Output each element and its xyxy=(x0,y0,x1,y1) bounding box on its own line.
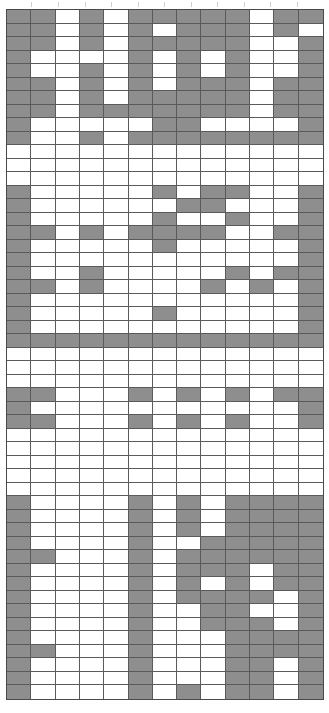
matrix-cell-r47-c5 xyxy=(104,631,128,645)
matrix-cell-r20-c5 xyxy=(104,267,128,281)
matrix-cell-r13-c12 xyxy=(274,172,298,186)
matrix-cell-r36-c7 xyxy=(153,483,177,497)
matrix-cell-r36-c5 xyxy=(104,483,128,497)
matrix-cell-r12-c12 xyxy=(274,159,298,173)
matrix-cell-r15-c11 xyxy=(250,199,274,213)
matrix-cell-r11-c6 xyxy=(129,145,153,159)
matrix-cell-r30-c7 xyxy=(153,402,177,416)
matrix-cell-r36-c2 xyxy=(31,483,55,497)
matrix-cell-r14-c4 xyxy=(80,186,104,200)
matrix-cell-r7-c2 xyxy=(31,91,55,105)
matrix-cell-r16-c4 xyxy=(80,213,104,227)
matrix-cell-r21-c10 xyxy=(226,280,250,294)
matrix-cell-r43-c4 xyxy=(80,577,104,591)
matrix-cell-r37-c7 xyxy=(153,496,177,510)
matrix-cell-r18-c1 xyxy=(7,240,31,254)
column-tick-9 xyxy=(244,2,245,7)
matrix-cell-r10-c10 xyxy=(226,132,250,146)
matrix-cell-r8-c6 xyxy=(129,105,153,119)
matrix-cell-r17-c11 xyxy=(250,226,274,240)
matrix-cell-r48-c12 xyxy=(274,645,298,659)
matrix-cell-r21-c5 xyxy=(104,280,128,294)
matrix-cell-r34-c11 xyxy=(250,456,274,470)
matrix-cell-r16-c7 xyxy=(153,213,177,227)
matrix-cell-r33-c8 xyxy=(177,442,201,456)
matrix-cell-r3-c10 xyxy=(226,37,250,51)
matrix-cell-r11-c12 xyxy=(274,145,298,159)
matrix-cell-r41-c1 xyxy=(7,550,31,564)
matrix-cell-r26-c3 xyxy=(56,348,80,362)
matrix-cell-r25-c3 xyxy=(56,334,80,348)
matrix-cell-r13-c10 xyxy=(226,172,250,186)
matrix-cell-r39-c12 xyxy=(274,523,298,537)
matrix-cell-r46-c1 xyxy=(7,618,31,632)
matrix-cell-r42-c10 xyxy=(226,564,250,578)
matrix-cell-r38-c1 xyxy=(7,510,31,524)
matrix-cell-r28-c5 xyxy=(104,375,128,389)
matrix-cell-r5-c4 xyxy=(80,64,104,78)
matrix-cell-r44-c10 xyxy=(226,591,250,605)
matrix-cell-r45-c3 xyxy=(56,604,80,618)
matrix-cell-r6-c1 xyxy=(7,78,31,92)
matrix-cell-r6-c2 xyxy=(31,78,55,92)
matrix-cell-r21-c2 xyxy=(31,280,55,294)
column-tick-2 xyxy=(58,2,59,7)
matrix-cell-r49-c12 xyxy=(274,658,298,672)
matrix-cell-r50-c9 xyxy=(201,672,225,686)
matrix-cell-r22-c5 xyxy=(104,294,128,308)
matrix-cell-r51-c2 xyxy=(31,685,55,699)
matrix-cell-r46-c7 xyxy=(153,618,177,632)
matrix-cell-r9-c6 xyxy=(129,118,153,132)
matrix-cell-r19-c10 xyxy=(226,253,250,267)
matrix-cell-r23-c10 xyxy=(226,307,250,321)
matrix-cell-r36-c12 xyxy=(274,483,298,497)
matrix-cell-r4-c11 xyxy=(250,51,274,65)
matrix-cell-r40-c3 xyxy=(56,537,80,551)
matrix-cell-r29-c2 xyxy=(31,388,55,402)
matrix-cell-r51-c4 xyxy=(80,685,104,699)
matrix-cell-r22-c3 xyxy=(56,294,80,308)
matrix-cell-r41-c13 xyxy=(299,550,323,564)
matrix-cell-r51-c12 xyxy=(274,685,298,699)
matrix-cell-r10-c12 xyxy=(274,132,298,146)
matrix-cell-r39-c7 xyxy=(153,523,177,537)
matrix-cell-r24-c2 xyxy=(31,321,55,335)
matrix-cell-r36-c9 xyxy=(201,483,225,497)
matrix-cell-r10-c11 xyxy=(250,132,274,146)
matrix-cell-r24-c1 xyxy=(7,321,31,335)
matrix-cell-r5-c1 xyxy=(7,64,31,78)
matrix-cell-r20-c8 xyxy=(177,267,201,281)
matrix-cell-r34-c8 xyxy=(177,456,201,470)
matrix-cell-r14-c12 xyxy=(274,186,298,200)
matrix-cell-r20-c13 xyxy=(299,267,323,281)
matrix-cell-r23-c6 xyxy=(129,307,153,321)
matrix-cell-r28-c7 xyxy=(153,375,177,389)
matrix-cell-r44-c13 xyxy=(299,591,323,605)
matrix-cell-r29-c7 xyxy=(153,388,177,402)
matrix-cell-r25-c11 xyxy=(250,334,274,348)
matrix-cell-r18-c12 xyxy=(274,240,298,254)
matrix-cell-r39-c2 xyxy=(31,523,55,537)
matrix-cell-r22-c4 xyxy=(80,294,104,308)
matrix-cell-r44-c11 xyxy=(250,591,274,605)
matrix-cell-r50-c12 xyxy=(274,672,298,686)
matrix-grid xyxy=(7,10,323,699)
matrix-cell-r40-c7 xyxy=(153,537,177,551)
matrix-cell-r47-c3 xyxy=(56,631,80,645)
matrix-cell-r15-c8 xyxy=(177,199,201,213)
matrix-cell-r8-c4 xyxy=(80,105,104,119)
matrix-cell-r43-c5 xyxy=(104,577,128,591)
matrix-cell-r24-c4 xyxy=(80,321,104,335)
matrix-cell-r5-c12 xyxy=(274,64,298,78)
matrix-cell-r37-c12 xyxy=(274,496,298,510)
matrix-cell-r41-c4 xyxy=(80,550,104,564)
matrix-cell-r50-c1 xyxy=(7,672,31,686)
matrix-cell-r1-c4 xyxy=(80,10,104,24)
matrix-cell-r28-c12 xyxy=(274,375,298,389)
matrix-cell-r51-c1 xyxy=(7,685,31,699)
matrix-cell-r16-c11 xyxy=(250,213,274,227)
matrix-cell-r9-c2 xyxy=(31,118,55,132)
matrix-cell-r6-c8 xyxy=(177,78,201,92)
matrix-cell-r13-c13 xyxy=(299,172,323,186)
matrix-cell-r31-c13 xyxy=(299,415,323,429)
